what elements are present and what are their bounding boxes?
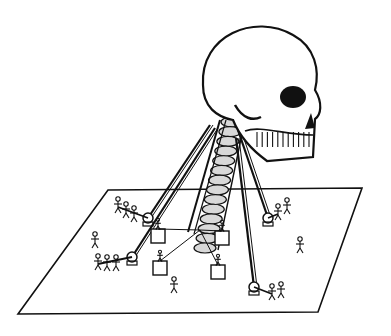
standing-figure [91,232,99,248]
pulling-figure [274,204,282,220]
rope [148,125,210,218]
vertebra [211,165,233,175]
skull-spine-illustration [0,0,391,336]
pulling-figure [283,198,291,214]
pulling-figure [112,255,120,271]
vertebra [194,243,216,253]
cargo-box [215,231,229,245]
rope [151,125,213,218]
eye-socket [280,86,306,108]
pulling-figure [268,284,276,300]
cargo-box [211,265,225,279]
vertebra [200,214,222,224]
vertebra [206,185,228,195]
vertebra [204,195,226,205]
vertebra [202,204,224,214]
standing-figure [296,237,304,253]
illustration-canvas [0,0,391,336]
platform [18,188,362,314]
pulling-figure [114,197,122,213]
box-figure [215,254,221,265]
vertebra [209,175,231,185]
pulling-figure [122,202,130,218]
cargo-box [151,229,165,243]
cargo-box [153,261,167,275]
standing-figure [170,277,178,293]
pulling-figure [94,254,102,270]
pulling-figure [277,282,285,298]
box-cable [160,230,200,261]
